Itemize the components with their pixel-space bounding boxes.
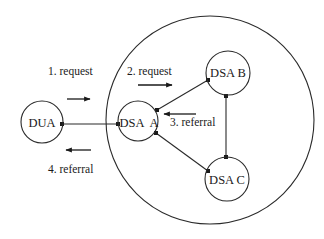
- node-dsa-b-label: DSA B: [210, 66, 246, 80]
- step-3-label: 3. referral: [170, 116, 215, 128]
- diagram-svg: DUA DSA A DSA B DSA C 1. request 2. requ…: [0, 0, 324, 239]
- node-dsa-c-label: DSA C: [209, 173, 245, 187]
- node-dsa-a: DSA A: [118, 101, 158, 141]
- node-dua: DUA: [21, 101, 63, 143]
- link-dsa-a-dsa-c: [156, 133, 208, 171]
- step-4-label: 4. referral: [48, 163, 93, 175]
- node-dua-label: DUA: [28, 116, 55, 130]
- node-dsa-c: DSA C: [205, 157, 249, 201]
- node-dsa-b: DSA B: [206, 51, 250, 95]
- step-1-label: 1. request: [48, 65, 94, 78]
- referral-diagram: DUA DSA A DSA B DSA C 1. request 2. requ…: [0, 0, 324, 239]
- node-dsa-a-label: DSA A: [120, 116, 159, 130]
- step-2-label: 2. request: [127, 65, 173, 78]
